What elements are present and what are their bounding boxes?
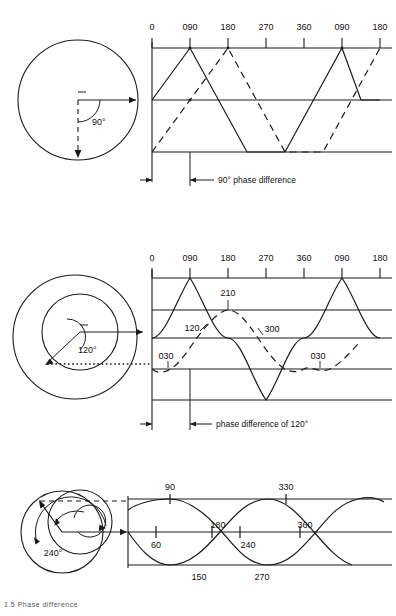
reference-arrow-head <box>136 329 143 335</box>
point-label-240: 240 <box>240 540 255 550</box>
annotation-arrowhead-right <box>190 177 196 182</box>
point-label-030-b: 030 <box>310 351 325 361</box>
phase-difference-label: 90° phase difference <box>218 175 296 185</box>
wave-peak-marker <box>189 47 192 50</box>
point-label-270: 270 <box>254 572 269 582</box>
phasor-angle-label: 90° <box>92 117 106 127</box>
point-label-330: 330 <box>278 482 293 492</box>
phase-difference-label: phase difference of 120° <box>216 419 308 429</box>
point-label-360: 360 <box>297 520 312 530</box>
point-label-90: 90 <box>165 482 175 492</box>
leader-300 <box>258 328 263 335</box>
point-label-60: 60 <box>151 540 161 550</box>
reference-arrow-head <box>129 97 136 103</box>
axis-tick-label: 090 <box>182 22 197 32</box>
wave-peak-marker <box>227 47 230 50</box>
lagging-arrow-line <box>40 502 62 532</box>
lagging-arrow-head <box>75 150 82 158</box>
axis-tick-label: 360 <box>296 22 311 32</box>
lagging-arrow-line <box>47 332 80 363</box>
phasor-angle-label: 240° <box>44 548 63 558</box>
axis-tick-label: 0 <box>149 253 154 263</box>
point-label-210: 210 <box>220 288 235 298</box>
inner-rotation-arc <box>57 511 84 520</box>
annotation-arrowhead-left <box>146 421 152 426</box>
rotation-arc-tail <box>34 537 40 545</box>
axis-tick-label: 180 <box>372 22 387 32</box>
wave-zero-marker <box>189 99 192 102</box>
wave-peak-marker <box>341 47 344 50</box>
panel-120-degree: 120° 0 090 180 270 360 090 180 <box>0 240 396 440</box>
axis-tick-label: 180 <box>220 253 235 263</box>
axis-tick-label: 360 <box>296 253 311 263</box>
axis-tick-label: 0 <box>149 22 154 32</box>
axis-tick-label: 090 <box>334 22 349 32</box>
lagging-wave-dashed <box>152 310 358 372</box>
leader-120 <box>200 324 207 331</box>
wave-a-solid <box>128 498 384 565</box>
rotation-arc <box>35 497 106 539</box>
axis-tick-label: 090 <box>334 253 349 263</box>
panel-90-degree: 90° 0 090 180 270 360 090 180 <box>0 0 396 210</box>
axis-tick-label: 270 <box>258 22 273 32</box>
point-label-030-a: 030 <box>158 351 173 361</box>
axis-tick-label: 180 <box>372 253 387 263</box>
panel-240-svg: 240° 90 330 180 360 60 240 150 270 <box>0 460 396 600</box>
point-label-300: 300 <box>264 324 279 334</box>
annotation-arrowhead-left <box>146 177 152 182</box>
panel-90-svg: 90° 0 090 180 270 360 090 180 <box>0 0 396 210</box>
axis-tick-label: 090 <box>182 253 197 263</box>
panel-120-svg: 120° 0 090 180 270 360 090 180 <box>0 240 396 440</box>
reference-wave-solid <box>152 278 380 400</box>
point-label-120: 120 <box>184 323 199 333</box>
point-label-180: 180 <box>210 520 225 530</box>
phasor-angle-label: 120° <box>78 345 97 355</box>
axis-tick-label: 180 <box>220 22 235 32</box>
point-label-150: 150 <box>191 572 206 582</box>
annotation-arrowhead-right <box>190 421 196 426</box>
figure-caption: 1.5 Phase difference <box>4 601 78 608</box>
panel-240-degree: 240° 90 330 180 360 60 240 150 270 <box>0 460 396 600</box>
axis-tick-label: 270 <box>258 253 273 263</box>
reference-arrow-head <box>120 529 127 535</box>
